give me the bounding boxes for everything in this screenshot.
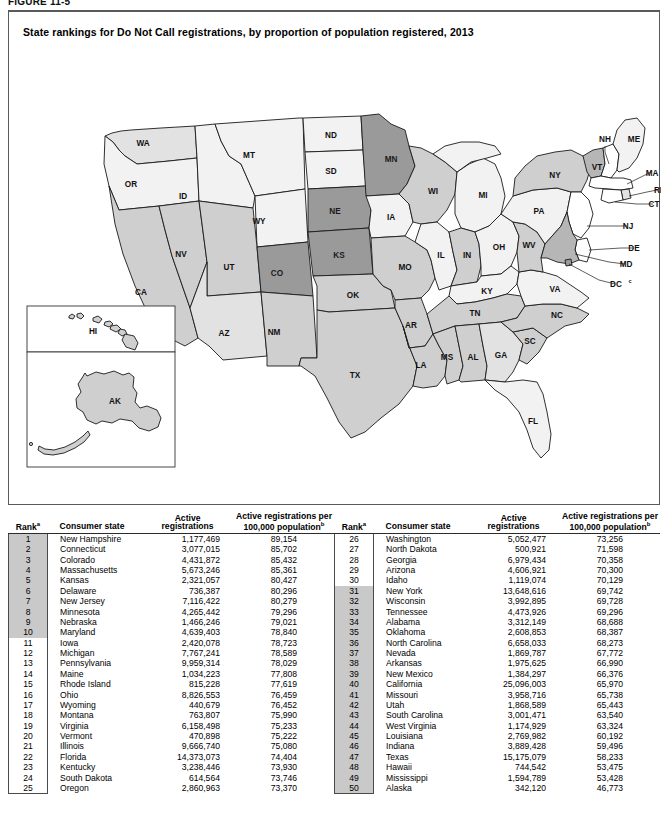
cell-consumer-state: Kentucky bbox=[48, 762, 154, 772]
table-row: 29Arizona4,606,92170,300 bbox=[335, 565, 661, 575]
cell-registrations-per-100k: 73,930 bbox=[234, 762, 334, 772]
cell-consumer-state: Arizona bbox=[374, 565, 480, 575]
rankings-table-left: Ranka Consumer state Active registration… bbox=[8, 512, 334, 794]
cell-consumer-state: Delaware bbox=[48, 586, 154, 596]
rankings-table-right: Ranka Consumer state Active registration… bbox=[334, 512, 660, 794]
cell-active-registrations: 614,564 bbox=[153, 773, 234, 783]
cell-consumer-state: Pennsylvania bbox=[48, 659, 154, 669]
cell-consumer-state: Virginia bbox=[48, 721, 154, 731]
cell-consumer-state: Utah bbox=[374, 700, 480, 710]
cell-consumer-state: Colorado bbox=[48, 555, 154, 565]
map-label-OH: OH bbox=[493, 243, 505, 252]
table-row: 12Michigan7,767,24178,589 bbox=[9, 648, 335, 658]
cell-rank: 26 bbox=[335, 534, 374, 545]
cell-rank: 1 bbox=[9, 534, 48, 545]
cell-rank: 44 bbox=[335, 721, 374, 731]
callout-DE bbox=[589, 248, 633, 250]
cell-active-registrations: 470,898 bbox=[153, 731, 234, 741]
cell-registrations-per-100k: 68,688 bbox=[560, 617, 660, 627]
cell-consumer-state: Hawaii bbox=[374, 762, 480, 772]
state-CT bbox=[601, 189, 623, 203]
table-row: 42Utah1,868,58965,443 bbox=[335, 700, 661, 710]
cell-rank: 28 bbox=[335, 555, 374, 565]
cell-registrations-per-100k: 78,029 bbox=[234, 659, 334, 669]
cell-rank: 41 bbox=[335, 690, 374, 700]
map-label-IN: IN bbox=[463, 251, 471, 260]
cell-rank: 14 bbox=[9, 669, 48, 679]
table-row: 20Vermont470,89875,222 bbox=[9, 731, 335, 741]
cell-active-registrations: 8,826,553 bbox=[153, 690, 234, 700]
cell-active-registrations: 2,608,853 bbox=[479, 627, 560, 637]
cell-active-registrations: 3,312,149 bbox=[479, 617, 560, 627]
table-row: 41Missouri3,958,71665,738 bbox=[335, 690, 661, 700]
cell-registrations-per-100k: 63,540 bbox=[560, 710, 660, 720]
cell-registrations-per-100k: 73,370 bbox=[234, 783, 334, 794]
map-label-VT: VT bbox=[592, 163, 602, 172]
cell-rank: 36 bbox=[335, 638, 374, 648]
cell-consumer-state: South Dakota bbox=[48, 773, 154, 783]
cell-rank: 23 bbox=[9, 762, 48, 772]
table-row: 35Oklahoma2,608,85368,387 bbox=[335, 627, 661, 637]
map-label-TN: TN bbox=[470, 309, 481, 318]
map-label-OK: OK bbox=[347, 291, 359, 300]
table-row: 21Illinois9,666,74075,080 bbox=[9, 742, 335, 752]
map-label-CT: CT bbox=[649, 200, 660, 209]
cell-registrations-per-100k: 77,808 bbox=[234, 669, 334, 679]
cell-active-registrations: 3,077,015 bbox=[153, 544, 234, 554]
cell-rank: 37 bbox=[335, 648, 374, 658]
map-label-KS: KS bbox=[333, 251, 345, 260]
col-header-state: Consumer state bbox=[48, 512, 154, 534]
cell-registrations-per-100k: 76,459 bbox=[234, 690, 334, 700]
table-row: 30Idaho1,119,07470,129 bbox=[335, 576, 661, 586]
cell-consumer-state: Connecticut bbox=[48, 544, 154, 554]
cell-consumer-state: North Carolina bbox=[374, 638, 480, 648]
map-label-NC: NC bbox=[551, 311, 563, 320]
cell-active-registrations: 3,001,471 bbox=[479, 710, 560, 720]
table-row: 34Alabama3,312,14968,688 bbox=[335, 617, 661, 627]
cell-rank: 49 bbox=[335, 773, 374, 783]
cell-active-registrations: 14,373,073 bbox=[153, 752, 234, 762]
cell-active-registrations: 342,120 bbox=[479, 783, 560, 794]
table-row: 38Arkansas1,975,62566,990 bbox=[335, 659, 661, 669]
map-label-AZ: AZ bbox=[219, 329, 230, 338]
cell-registrations-per-100k: 70,129 bbox=[560, 576, 660, 586]
map-label-OR: OR bbox=[125, 180, 137, 189]
rank-footnote-marker: a bbox=[37, 521, 40, 527]
cell-consumer-state: Maine bbox=[48, 669, 154, 679]
map-label-MT: MT bbox=[243, 151, 255, 160]
cell-rank: 12 bbox=[9, 648, 48, 658]
cell-active-registrations: 6,658,033 bbox=[479, 638, 560, 648]
map-label-NJ: NJ bbox=[623, 222, 633, 231]
table-row: 7New Jersey7,116,42280,279 bbox=[9, 596, 335, 606]
map-label-AL: AL bbox=[468, 353, 479, 362]
map-label-NM: NM bbox=[268, 328, 281, 337]
cell-consumer-state: Wisconsin bbox=[374, 596, 480, 606]
cell-consumer-state: New York bbox=[374, 586, 480, 596]
rank-footnote-marker: a bbox=[363, 521, 366, 527]
map-label-WA: WA bbox=[136, 139, 149, 148]
table-row: 26Washington5,052,47773,256 bbox=[335, 534, 661, 545]
cell-rank: 34 bbox=[335, 617, 374, 627]
table-row: 5Kansas2,321,05780,427 bbox=[9, 576, 335, 586]
cell-registrations-per-100k: 78,723 bbox=[234, 638, 334, 648]
cell-active-registrations: 1,466,246 bbox=[153, 617, 234, 627]
map-label-MS: MS bbox=[441, 353, 454, 362]
cell-active-registrations: 4,639,403 bbox=[153, 627, 234, 637]
cell-rank: 10 bbox=[9, 627, 48, 637]
cell-registrations-per-100k: 67,772 bbox=[560, 648, 660, 658]
table-row: 14Maine1,034,22377,808 bbox=[9, 669, 335, 679]
cell-registrations-per-100k: 70,300 bbox=[560, 565, 660, 575]
cell-rank: 16 bbox=[9, 690, 48, 700]
map-label-FL: FL bbox=[528, 417, 538, 426]
map-label-AK: AK bbox=[109, 397, 121, 406]
us-choropleth-map: WA OR CA NV ID MT WY UT AZ CO NM ND SD N… bbox=[9, 46, 661, 504]
figure-title: State rankings for Do Not Call registrat… bbox=[23, 26, 474, 38]
state-CO bbox=[257, 242, 313, 296]
cell-consumer-state: Michigan bbox=[48, 648, 154, 658]
map-label-PA: PA bbox=[534, 207, 545, 216]
table-row: 49Mississippi1,594,78953,428 bbox=[335, 773, 661, 783]
cell-rank: 50 bbox=[335, 783, 374, 794]
col-header-per-line2: 100,000 populationb bbox=[236, 521, 332, 531]
cell-registrations-per-100k: 85,361 bbox=[234, 565, 334, 575]
table-row: 47Texas15,175,07958,233 bbox=[335, 752, 661, 762]
